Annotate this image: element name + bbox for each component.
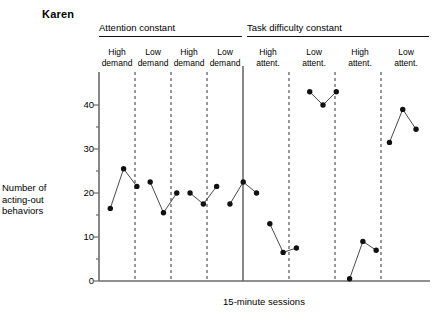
data-series-phase-5: High attent. — session 13: 13High attent… [267,221,299,255]
data-series-phase-3: High demand — session 7: 20High demand —… [187,184,219,207]
data-point: Low attent. — session 16: 43 [307,89,312,94]
data-series-layer: High demand — session 1: 16.5High demand… [108,89,419,281]
data-series-phase-8: Low attent. — session 22: 31.5Low attent… [387,107,419,145]
series-line [150,182,177,213]
single-case-design-figure: Karen Attention constant Task difficulty… [0,0,445,322]
data-point: High demand — session 8: 17.5 [201,201,206,206]
data-point: High demand — session 1: 16.5 [108,206,113,211]
data-series-phase-7: High attent. — session 19: 0.5High atten… [347,239,379,282]
data-point: Low demand — session 6: 20 [174,190,179,195]
series-line [110,169,137,209]
data-point: High attent. — session 15: 7.5 [294,245,299,250]
data-point: Low demand — session 10: 17.5 [227,201,232,206]
data-point: High attent. — session 20: 9 [360,239,365,244]
axes [94,72,430,281]
data-point: Low attent. — session 22: 31.5 [387,140,392,145]
phase-dividers [135,66,381,281]
data-point: High attent. — session 13: 13 [267,221,272,226]
data-series-phase-2: Low demand — session 4: 22.5Low demand —… [147,179,179,215]
data-point: High demand — session 3: 21.5 [134,184,139,189]
data-point: Low demand — session 12: 20 [254,190,259,195]
data-point: High attent. — session 14: 6.5 [280,250,285,255]
series-line [389,109,416,142]
data-point: Low demand — session 11: 22.5 [241,179,246,184]
data-point: High demand — session 9: 21.5 [214,184,219,189]
data-point: High attent. — session 21: 7 [373,248,378,253]
series-line [350,241,377,278]
data-point: Low demand — session 4: 22.5 [147,179,152,184]
data-point: High demand — session 2: 25.5 [121,166,126,171]
data-point: Low demand — session 5: 15.5 [161,210,166,215]
data-point: High attent. — session 19: 0.5 [347,276,352,281]
data-point: Low attent. — session 18: 43 [334,89,339,94]
data-point: Low attent. — session 17: 40 [320,102,325,107]
series-line [270,224,297,253]
data-point: Low attent. — session 24: 34.5 [413,127,418,132]
data-point: Low attent. — session 23: 39 [400,107,405,112]
plot-area: High demand — session 1: 16.5High demand… [0,0,445,322]
data-series-phase-6: Low attent. — session 16: 43Low attent. … [307,89,339,108]
data-point: High demand — session 7: 20 [187,190,192,195]
